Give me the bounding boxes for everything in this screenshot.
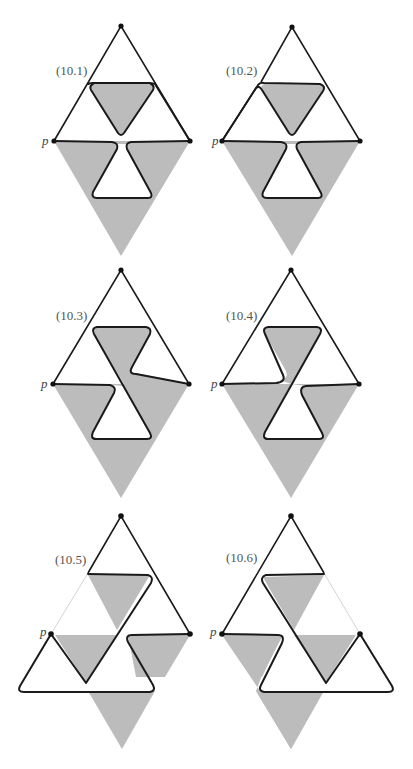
panel-10-4: (10.4) p [206, 255, 412, 505]
vertex-p [219, 381, 224, 386]
right-vertex [357, 631, 363, 637]
right-vertex [187, 138, 192, 143]
diagram-10-4 [206, 255, 413, 505]
bottom-shaded-triangle [88, 691, 155, 749]
upper-shaded-region [264, 327, 321, 384]
panel-10-5: (10.5) p [0, 505, 206, 769]
top-vertex [289, 24, 294, 29]
panel-10-6: (10.6) p [206, 505, 412, 769]
vertex-p-label: p [42, 133, 49, 149]
diagram-10-1 [0, 0, 206, 260]
panel-label: (10.4) [226, 308, 257, 324]
thin-edge [324, 573, 360, 634]
diagram-10-3 [0, 255, 206, 505]
vertex-p-label: p [212, 133, 219, 149]
top-vertex [118, 513, 124, 519]
vertex-p-label: p [40, 624, 47, 640]
middle-shaded-region [294, 635, 356, 682]
right-vertex [186, 381, 191, 386]
middle-shaded-region [55, 635, 117, 683]
panel-label: (10.2) [226, 63, 257, 79]
top-vertex [288, 513, 294, 519]
vertex-p-label: p [211, 376, 218, 392]
panel-label: (10.3) [56, 308, 87, 324]
vertex-p [50, 381, 55, 386]
diagram-10-2 [206, 0, 413, 260]
right-shaded-region [128, 635, 190, 677]
bottom-shaded-triangle [256, 691, 324, 749]
panel-10-1: (10.1) p [0, 0, 206, 260]
vertex-p [219, 631, 225, 637]
top-vertex [118, 23, 123, 28]
vertex-p [48, 631, 54, 637]
panel-10-2: (10.2) p [206, 0, 412, 260]
upper-shaded-region [263, 575, 324, 630]
vertex-p-label: p [41, 376, 48, 392]
top-vertex [288, 267, 293, 272]
vertex-p [219, 138, 224, 143]
panel-10-3: (10.3) p [0, 255, 206, 505]
upper-shaded-region [90, 84, 154, 135]
panel-label: (10.1) [56, 63, 87, 79]
diagram-10-5 [0, 505, 206, 769]
right-vertex [187, 631, 193, 637]
upper-shaded-region [88, 575, 150, 630]
thin-edge [51, 573, 88, 634]
vertex-p-label: p [210, 624, 217, 640]
right-vertex [357, 138, 362, 143]
upper-shaded-region [261, 84, 324, 135]
diagram-10-6 [206, 505, 413, 769]
right-vertex [356, 381, 361, 386]
vertex-p [51, 138, 56, 143]
panel-label: (10.6) [226, 550, 257, 566]
panel-label: (10.5) [55, 552, 86, 568]
top-vertex [118, 267, 123, 272]
